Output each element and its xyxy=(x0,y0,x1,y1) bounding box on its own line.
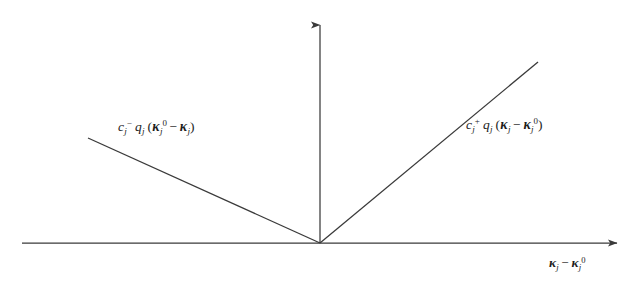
right-minus-operator: − xyxy=(510,117,523,132)
left-branch-line xyxy=(88,138,320,243)
penalty-function-figure: cj−qj(κj0−κj) cj+qj(κj−κj0) κj−κj0 xyxy=(0,0,638,292)
axis-minus-operator: − xyxy=(559,255,572,270)
axis-kappa-2: κ xyxy=(571,255,578,270)
right-branch-label: cj+qj(κj−κj0) xyxy=(466,117,543,134)
left-close-paren: ) xyxy=(190,119,195,134)
right-close-paren: ) xyxy=(538,117,543,132)
left-branch-label: cj−qj(κj0−κj) xyxy=(118,119,195,136)
right-kappa-1: κ xyxy=(500,117,508,132)
left-q-subscript: j xyxy=(142,126,145,136)
left-kappa-1: κ xyxy=(152,119,160,134)
right-branch-line xyxy=(320,62,538,243)
right-q-symbol: q xyxy=(483,117,490,132)
right-q-subscript: j xyxy=(490,124,493,134)
right-c-superscript: + xyxy=(475,116,480,126)
figure-canvas xyxy=(0,0,638,292)
x-axis-label: κj−κj0 xyxy=(549,256,586,272)
left-q-symbol: q xyxy=(135,119,142,134)
left-minus-operator: − xyxy=(167,119,180,134)
right-kappa-2: κ xyxy=(523,117,531,132)
left-c-superscript: − xyxy=(127,118,132,128)
axis-kappa-2-superscript: 0 xyxy=(581,255,585,265)
